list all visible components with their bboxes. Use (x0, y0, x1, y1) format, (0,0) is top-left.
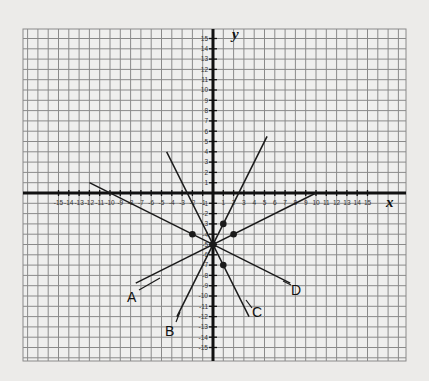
y-tick-label: -9 (202, 282, 208, 289)
x-tick-label: 4 (252, 199, 256, 206)
y-tick-label: 8 (204, 107, 208, 114)
point-b (220, 221, 227, 228)
x-tick-label: 7 (283, 199, 287, 206)
x-tick-label: -5 (159, 199, 165, 206)
y-tick-label: -10 (199, 292, 209, 299)
intersection-point (209, 241, 216, 248)
x-tick-label: 6 (273, 199, 277, 206)
y-tick-label: 6 (204, 128, 208, 135)
x-tick-label: 11 (323, 199, 330, 206)
x-tick-label: 1 (221, 199, 225, 206)
line-label-a: A (127, 289, 137, 305)
y-tick-label: 4 (204, 148, 208, 155)
y-tick-label: 5 (204, 138, 208, 145)
x-tick-label: -4 (169, 199, 175, 206)
x-tick-label: 10 (312, 199, 320, 206)
y-tick-label: 12 (201, 66, 209, 73)
y-tick-label: 14 (201, 45, 209, 52)
y-tick-label: 1 (204, 179, 208, 186)
line-label-d: D (291, 282, 301, 298)
line-label-b: B (165, 323, 174, 339)
y-tick-label: -14 (199, 334, 209, 341)
x-tick-label: -11 (95, 199, 104, 206)
y-tick-label: -2 (202, 210, 208, 217)
y-tick-label: 7 (204, 117, 208, 124)
x-tick-label: -14 (64, 199, 74, 206)
x-tick-label: 14 (354, 199, 362, 206)
y-tick-label: -12 (199, 313, 209, 320)
y-tick-label: -15 (199, 344, 209, 351)
y-tick-label: 15 (201, 35, 209, 42)
x-tick-label: -6 (148, 199, 154, 206)
y-tick-label: 10 (201, 86, 209, 93)
y-tick-label: -11 (199, 303, 208, 310)
y-tick-label: -13 (199, 323, 209, 330)
point-c (220, 262, 227, 269)
x-tick-label: -13 (74, 199, 84, 206)
point-a (230, 231, 237, 238)
y-tick-label: 9 (204, 97, 208, 104)
coordinate-plane: -15-14-13-12-11-10-9-8-7-6-5-4-3-2-11234… (0, 0, 429, 381)
x-tick-label: -10 (105, 199, 115, 206)
x-tick-label: -7 (138, 199, 144, 206)
x-tick-label: 3 (242, 199, 246, 206)
y-tick-label: 13 (201, 55, 209, 62)
y-tick-label: -1 (202, 200, 208, 207)
y-axis-label: y (230, 26, 239, 42)
x-tick-label: 15 (364, 199, 372, 206)
line-label-c: C (252, 304, 262, 320)
y-tick-label: 11 (201, 76, 208, 83)
x-tick-label: 5 (263, 199, 267, 206)
x-tick-label: 13 (343, 199, 351, 206)
y-tick-label: 3 (204, 158, 208, 165)
x-tick-label: 9 (304, 199, 308, 206)
y-tick-label: 2 (204, 169, 208, 176)
x-axis-label: x (385, 194, 394, 210)
x-tick-label: -12 (85, 199, 95, 206)
point-d (189, 231, 196, 238)
x-tick-label: 12 (333, 199, 341, 206)
x-tick-label: -3 (179, 199, 185, 206)
x-tick-label: -15 (54, 199, 64, 206)
y-tick-label: -8 (202, 272, 208, 279)
